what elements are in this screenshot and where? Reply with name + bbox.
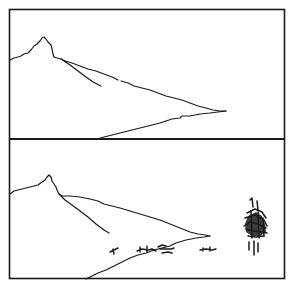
two-panel-illustration (0, 0, 289, 286)
boat-4 (162, 252, 172, 253)
outer-frame (10, 10, 285, 279)
illustration-canvas (0, 0, 289, 286)
